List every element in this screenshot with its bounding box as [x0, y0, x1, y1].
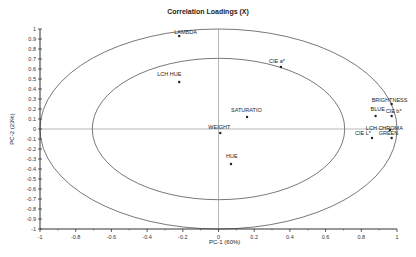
point-label: CIE L* — [355, 130, 372, 136]
point-label: CIE b* — [386, 108, 403, 114]
x-tick-label: 1 — [395, 234, 398, 240]
y-tick-label: 0.9 — [28, 36, 36, 42]
data-point — [371, 137, 373, 139]
x-tick-label: 0.2 — [250, 234, 258, 240]
data-point — [280, 66, 282, 68]
point-label: CIE a* — [269, 58, 286, 64]
data-point — [390, 115, 392, 117]
y-tick-label: -0.4 — [27, 166, 36, 172]
point-label: WEIGHT — [208, 124, 231, 130]
y-tick-label: -0.3 — [27, 156, 36, 162]
data-point — [178, 35, 180, 37]
y-tick-label: -0.5 — [27, 176, 36, 182]
y-tick-label: 0.7 — [28, 56, 36, 62]
plot-area: -1-0.8-0.6-0.4-0.200.20.40.60.8110.90.80… — [0, 0, 416, 257]
x-tick-label: -0.4 — [142, 234, 151, 240]
y-tick-label: -0.8 — [27, 206, 36, 212]
y-axis-label: PC-2 (23%) — [9, 113, 15, 144]
y-tick-label: 0.3 — [28, 96, 36, 102]
x-tick-label: -1 — [38, 234, 43, 240]
x-tick-label: -0.2 — [178, 234, 187, 240]
data-point — [390, 103, 392, 105]
data-point — [374, 115, 376, 117]
x-tick-label: 0.8 — [357, 234, 365, 240]
point-label: BLUE — [371, 106, 386, 112]
chart-title: Correlation Loadings (X) — [0, 8, 416, 15]
data-point — [246, 116, 248, 118]
x-tick-label: -0.6 — [107, 234, 116, 240]
data-point — [390, 137, 392, 139]
point-label: LAMBDA — [174, 29, 197, 35]
y-tick-label: -0.2 — [27, 146, 36, 152]
y-tick-label: -1 — [31, 226, 36, 232]
data-point — [219, 132, 221, 134]
data-point — [230, 163, 232, 165]
y-tick-label: 0.5 — [28, 76, 36, 82]
point-label: BRIGHTNESS — [372, 97, 408, 103]
y-tick-label: 0 — [33, 126, 36, 132]
y-tick-label: 0.8 — [28, 46, 36, 52]
point-label: GREEN — [379, 130, 399, 136]
y-tick-label: 0.6 — [28, 66, 36, 72]
y-tick-label: -0.6 — [27, 186, 36, 192]
y-tick-label: 1 — [33, 26, 36, 32]
correlation-loadings-chart: -1-0.8-0.6-0.4-0.200.20.40.60.8110.90.80… — [0, 0, 416, 257]
x-tick-label: -0.8 — [71, 234, 80, 240]
point-label: LCH HUE — [157, 71, 181, 77]
y-tick-label: -0.9 — [27, 216, 36, 222]
point-label: SATURATIO — [231, 107, 262, 113]
y-tick-label: 0.4 — [28, 86, 36, 92]
y-tick-label: 0.1 — [28, 116, 36, 122]
point-label: HUE — [226, 153, 238, 159]
x-tick-label: 0.6 — [322, 234, 330, 240]
x-tick-label: 0.4 — [286, 234, 294, 240]
y-tick-label: -0.1 — [27, 136, 36, 142]
y-tick-label: 0.2 — [28, 106, 36, 112]
data-point — [178, 81, 180, 83]
x-axis-label: PC-1 (60%) — [209, 239, 240, 245]
y-tick-label: -0.7 — [27, 196, 36, 202]
